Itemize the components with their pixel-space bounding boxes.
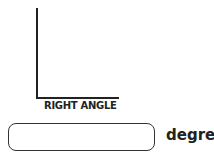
angle-vertical-arm xyxy=(36,8,38,99)
degree-answer-input[interactable] xyxy=(8,123,155,151)
angle-horizontal-arm xyxy=(36,97,119,99)
unit-label: degree xyxy=(166,126,214,144)
angle-label: RIGHT ANGLE xyxy=(44,100,117,111)
